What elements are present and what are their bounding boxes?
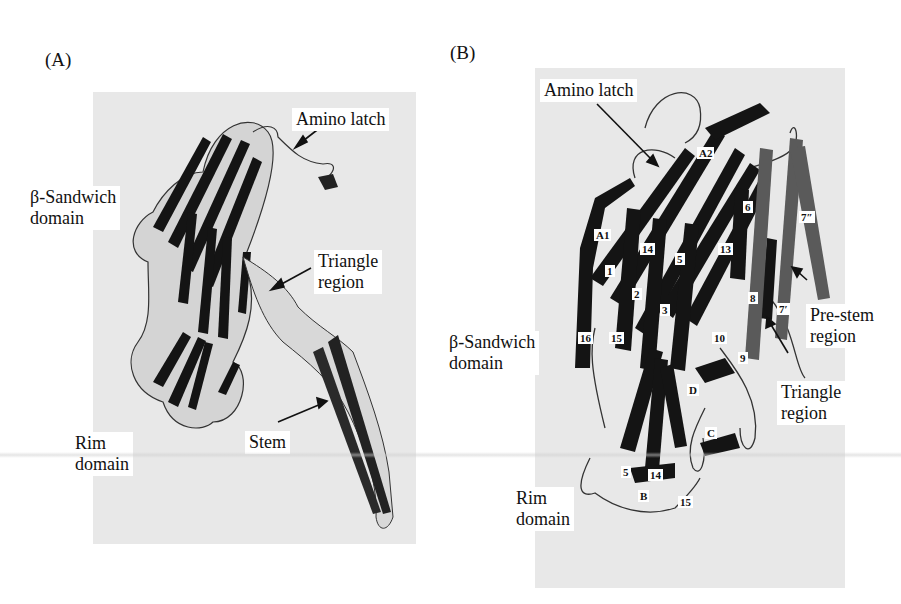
- callout-b-rim-domain: Rim domain: [512, 487, 574, 531]
- callout-a-beta-sandwich: β-Sandwich domain: [26, 186, 120, 230]
- strand-tag-7-prime: 7′: [777, 303, 790, 315]
- callout-a-stem: Stem: [245, 431, 290, 454]
- callout-b-triangle-region: Triangle region: [777, 381, 845, 425]
- strand-tag-rim-15: 15: [678, 496, 693, 508]
- strand-tag-5: 5: [675, 253, 685, 265]
- strand-tag-13: 13: [718, 243, 733, 255]
- callout-b-pre-stem-region: Pre-stem region: [806, 304, 878, 348]
- ribbon-diagram-a: [93, 92, 416, 544]
- panel-b-label: (B): [450, 42, 475, 64]
- strand-tag-a2: A2: [697, 147, 714, 159]
- ribbon-diagram-b: [535, 68, 845, 588]
- panel-a-structure: [93, 92, 416, 544]
- strand-tag-8: 8: [748, 292, 758, 304]
- strand-tag-c: C: [705, 427, 717, 439]
- panel-a-label: (A): [45, 49, 71, 71]
- strand-tag-2: 2: [632, 288, 642, 300]
- strand-tag-15: 15: [609, 332, 624, 344]
- strand-tag-7-double-prime: 7″: [799, 211, 815, 223]
- callout-a-triangle-region: Triangle region: [314, 250, 382, 294]
- strand-tag-9: 9: [738, 352, 748, 364]
- strand-tag-rim-14: 14: [648, 469, 663, 481]
- strand-tag-b: B: [638, 490, 649, 502]
- callout-a-amino-latch: Amino latch: [292, 108, 389, 131]
- strand-tag-1: 1: [605, 265, 615, 277]
- strand-tag-d: D: [687, 384, 699, 396]
- strand-tag-10: 10: [712, 332, 727, 344]
- strand-tag-14: 14: [640, 243, 655, 255]
- panel-b-structure: [535, 68, 845, 588]
- scan-artifact-line: [0, 452, 901, 458]
- callout-b-beta-sandwich: β-Sandwich domain: [445, 331, 539, 375]
- strand-tag-6: 6: [743, 201, 753, 213]
- strand-tag-3: 3: [660, 304, 670, 316]
- strand-tag-a1: A1: [594, 229, 611, 241]
- strand-tag-rim-5: 5: [621, 466, 631, 478]
- strand-tag-16: 16: [578, 332, 593, 344]
- callout-b-amino-latch: Amino latch: [540, 79, 637, 102]
